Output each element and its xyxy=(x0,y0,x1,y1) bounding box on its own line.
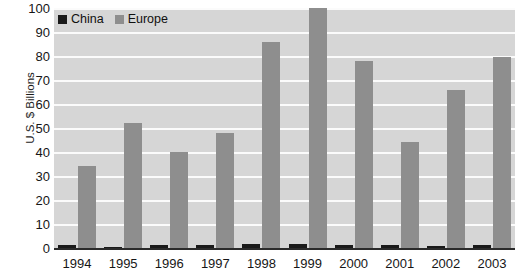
x-axis-tick-label: 2000 xyxy=(339,253,368,275)
bar-chart: U.S. $ Billions 1009080706050403020100 C… xyxy=(0,0,527,278)
y-axis-tick-label: 100 xyxy=(14,2,50,15)
y-axis-tick-label: 50 xyxy=(14,122,50,135)
legend-swatch-icon xyxy=(58,15,67,24)
legend-swatch-icon xyxy=(115,15,124,24)
bar-group-1996 xyxy=(146,8,192,248)
bar-europe-1998 xyxy=(262,42,280,248)
y-axis-tick-label: 60 xyxy=(14,98,50,111)
bar-group-2000 xyxy=(331,8,377,248)
bar-europe-2001 xyxy=(401,142,419,248)
bar-europe-1999 xyxy=(309,8,327,248)
y-axis-tick-label: 10 xyxy=(14,218,50,231)
legend-entry-europe: Europe xyxy=(115,13,168,26)
x-axis-tick-label: 1997 xyxy=(201,253,230,275)
x-axis-tick-label: 1995 xyxy=(109,253,138,275)
x-axis-line xyxy=(54,248,515,250)
legend-label: Europe xyxy=(128,13,168,26)
bar-group-2002 xyxy=(423,8,469,248)
y-axis-tick-label: 70 xyxy=(14,74,50,87)
x-axis-tick-label: 2002 xyxy=(431,253,460,275)
bar-group-1995 xyxy=(100,8,146,248)
x-axis-tick-label: 2001 xyxy=(385,253,414,275)
x-axis-tick-labels: 1994199519961997199819992000200120022003 xyxy=(54,253,515,277)
bar-europe-1995 xyxy=(124,123,142,248)
x-axis-tick-label: 1994 xyxy=(63,253,92,275)
bar-group-1999 xyxy=(285,8,331,248)
x-axis-tick-label: 2003 xyxy=(477,253,506,275)
legend-entry-china: China xyxy=(58,13,104,26)
bar-europe-2003 xyxy=(493,57,511,248)
y-axis-tick-label: 40 xyxy=(14,146,50,159)
x-axis-tick-label: 1996 xyxy=(155,253,184,275)
y-axis-tick-label: 30 xyxy=(14,170,50,183)
bar-group-2003 xyxy=(469,8,515,248)
bar-europe-1996 xyxy=(170,152,188,248)
bar-group-1997 xyxy=(192,8,238,248)
bar-group-1998 xyxy=(238,8,284,248)
y-axis-tick-label: 0 xyxy=(14,242,50,255)
chart-legend: ChinaEurope xyxy=(58,13,168,26)
bar-europe-2002 xyxy=(447,90,465,248)
x-axis-tick-label: 1999 xyxy=(293,253,322,275)
y-axis-tick-label: 20 xyxy=(14,194,50,207)
y-axis-tick-label: 90 xyxy=(14,26,50,39)
y-axis-tick-label: 80 xyxy=(14,50,50,63)
plot-area: ChinaEurope xyxy=(54,8,515,248)
y-axis-tick-labels: 1009080706050403020100 xyxy=(14,0,50,256)
bar-europe-2000 xyxy=(355,61,373,248)
bar-europe-1994 xyxy=(78,166,96,248)
bar-group-1994 xyxy=(54,8,100,248)
legend-label: China xyxy=(71,13,104,26)
x-axis-tick-label: 1998 xyxy=(247,253,276,275)
bar-group-2001 xyxy=(377,8,423,248)
bars-layer xyxy=(54,8,515,248)
bar-europe-1997 xyxy=(216,133,234,248)
